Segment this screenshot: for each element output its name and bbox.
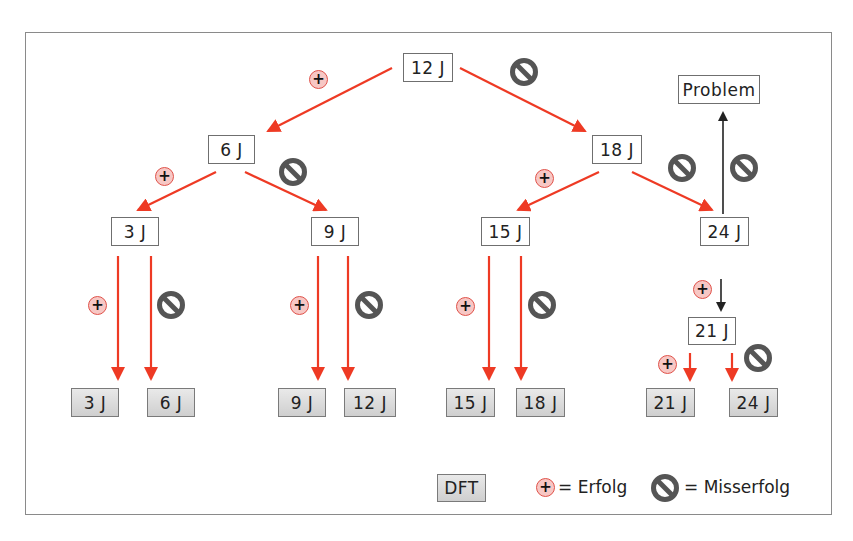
success-icon: + bbox=[309, 70, 328, 89]
success-icon: + bbox=[155, 167, 174, 186]
prohibition-icon bbox=[156, 290, 186, 320]
prohibition-icon bbox=[509, 57, 539, 87]
success-icon: + bbox=[693, 280, 712, 299]
prohibition-icon bbox=[729, 153, 759, 183]
success-icon: + bbox=[456, 297, 475, 316]
prohibition-icon bbox=[278, 157, 308, 187]
leaf-21j: 21 J bbox=[646, 388, 695, 417]
leaf-9j: 9 J bbox=[278, 388, 326, 417]
success-icon: + bbox=[658, 355, 677, 374]
node-15j: 15 J bbox=[481, 217, 530, 246]
success-icon: + bbox=[290, 296, 309, 315]
prohibition-icon bbox=[667, 153, 697, 183]
node-3j: 3 J bbox=[111, 217, 159, 246]
success-icon: + bbox=[535, 169, 554, 188]
prohibition-icon bbox=[354, 290, 384, 320]
node-problem: Problem bbox=[678, 75, 760, 104]
leaf-15j: 15 J bbox=[446, 388, 495, 417]
node-24j: 24 J bbox=[700, 217, 749, 246]
legend-prohibition-icon bbox=[650, 473, 680, 503]
arrow-6-to-3 bbox=[138, 172, 216, 210]
legend-success-text: = Erfolg bbox=[558, 477, 627, 497]
success-icon: + bbox=[88, 296, 107, 315]
leaf-24j: 24 J bbox=[729, 388, 778, 417]
prohibition-icon bbox=[527, 290, 557, 320]
leaf-18j: 18 J bbox=[516, 388, 565, 417]
arrow-12-to-6 bbox=[268, 68, 392, 131]
leaf-12j: 12 J bbox=[344, 388, 396, 417]
arrow-18-to-15 bbox=[518, 172, 599, 210]
node-6j: 6 J bbox=[208, 135, 255, 164]
leaf-3j: 3 J bbox=[71, 388, 119, 417]
node-21j: 21 J bbox=[688, 317, 736, 345]
legend-success-icon: + bbox=[536, 478, 555, 497]
legend-failure-text: = Misserfolg bbox=[684, 477, 790, 497]
prohibition-icon bbox=[743, 343, 773, 373]
leaf-6j: 6 J bbox=[147, 388, 195, 417]
node-root: 12 J bbox=[403, 53, 453, 82]
node-9j: 9 J bbox=[311, 217, 359, 246]
node-18j: 18 J bbox=[592, 135, 642, 164]
legend-dft-box: DFT bbox=[437, 474, 486, 502]
